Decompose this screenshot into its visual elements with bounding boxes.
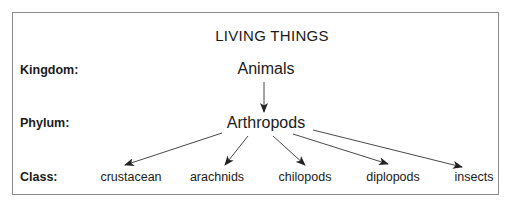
edge-arthropods-diplopods [293,134,388,164]
edge-arthropods-insects [313,130,462,167]
edge-arthropods-crustacean [125,133,222,165]
edge-arrows [0,0,512,208]
edge-arthropods-arachnids [225,136,248,165]
edge-arthropods-chilopods [273,136,305,165]
